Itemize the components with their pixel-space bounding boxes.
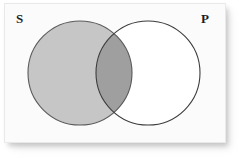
venn-diagram-figure: S P (0, 0, 239, 158)
circle-label-p: P (201, 12, 209, 25)
circle-label-s: S (16, 12, 23, 25)
